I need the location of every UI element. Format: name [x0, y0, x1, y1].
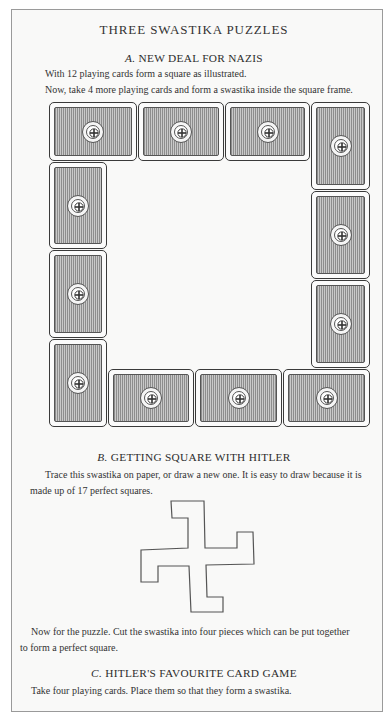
section-c-heading: C. HITLER'S FAVOURITE CARD GAME — [0, 667, 388, 679]
section-c-title: HITLER'S FAVOURITE CARD GAME — [105, 667, 297, 679]
swastika-outline — [141, 501, 254, 612]
section-c-letter: C. — [91, 667, 102, 679]
section-c-line: Take four playing cards. Place them so t… — [31, 683, 292, 699]
swastika-outline-figure — [0, 0, 388, 724]
section-b-puzzle-line-1: Now for the puzzle. Cut the swastika int… — [31, 624, 350, 640]
section-b-puzzle-line-2: to form a perfect square. — [20, 640, 118, 656]
